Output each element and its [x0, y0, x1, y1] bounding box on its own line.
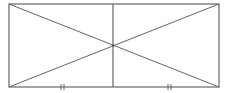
diagram-container [0, 0, 230, 93]
geometry-diagram [0, 0, 230, 93]
intersection-point [112, 44, 114, 46]
